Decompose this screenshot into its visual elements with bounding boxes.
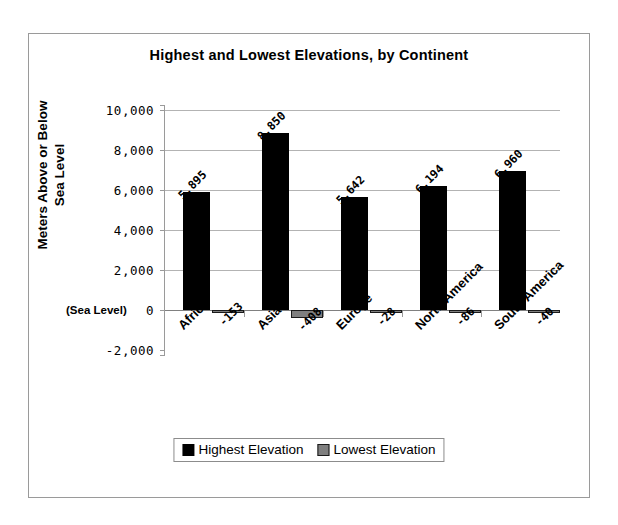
bar-highest-elevation: [183, 192, 210, 310]
y-axis-tick: [160, 150, 165, 151]
y-axis-tick-label: 8,000: [30, 143, 154, 158]
x-axis-tick: [481, 311, 482, 317]
legend-label-lowest: Lowest Elevation: [334, 442, 436, 457]
y-axis-tick-label: 4,000: [30, 223, 154, 238]
y-axis-tick-label: 6,000: [30, 183, 154, 198]
chart-screenshot: Highest and Lowest Elevations, by Contin…: [0, 0, 618, 525]
y-axis-tick: [160, 270, 165, 271]
y-axis-tick: [160, 230, 165, 231]
legend-swatch-highest-icon: [182, 444, 194, 456]
y-axis-tick-label: -2,000: [30, 343, 154, 358]
y-axis-tick: [160, 350, 165, 351]
y-axis-tick: [160, 190, 165, 191]
x-axis-tick: [244, 311, 245, 317]
legend-swatch-lowest-icon: [318, 444, 330, 456]
legend-label-highest: Highest Elevation: [198, 442, 303, 457]
y-axis-tick: [160, 110, 165, 111]
y-axis-tick: [160, 310, 165, 311]
x-axis-tick: [402, 311, 403, 317]
legend-item-highest[interactable]: Highest Elevation: [182, 442, 303, 457]
bar-highest-elevation: [262, 133, 289, 310]
y-axis-tick-label: 2,000: [30, 263, 154, 278]
y-axis-cap: [160, 105, 165, 106]
y-axis-cap: [160, 355, 165, 356]
chart-legend: Highest Elevation Lowest Elevation: [173, 438, 444, 462]
chart-title: Highest and Lowest Elevations, by Contin…: [29, 47, 589, 63]
y-axis-tick-label: 10,000: [30, 103, 154, 118]
legend-item-lowest[interactable]: Lowest Elevation: [318, 442, 436, 457]
gridline: [165, 150, 560, 151]
gridline: [165, 110, 560, 111]
sea-level-annotation: (Sea Level): [66, 304, 127, 316]
